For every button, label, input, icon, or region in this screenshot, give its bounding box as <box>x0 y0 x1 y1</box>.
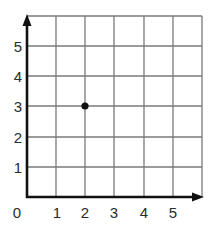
x-tick-label: 5 <box>169 204 177 221</box>
x-tick-label: 4 <box>140 204 148 221</box>
origin-label: 0 <box>13 204 21 221</box>
axes <box>23 14 205 202</box>
grid-lines <box>27 16 202 197</box>
x-tick-label: 1 <box>53 204 61 221</box>
y-tick-label: 4 <box>14 68 22 85</box>
x-tick-labels: 0 1 2 3 4 5 <box>13 204 177 221</box>
y-tick-label: 3 <box>14 98 22 115</box>
y-tick-labels: 1 2 3 4 5 <box>14 38 22 176</box>
data-point <box>81 102 88 109</box>
x-tick-label: 2 <box>81 204 89 221</box>
x-tick-label: 3 <box>110 204 118 221</box>
coordinate-grid-chart: 0 1 2 3 4 5 1 2 3 4 5 <box>0 0 216 232</box>
y-tick-label: 1 <box>14 159 22 176</box>
y-tick-label: 2 <box>14 129 22 146</box>
y-tick-label: 5 <box>14 38 22 55</box>
